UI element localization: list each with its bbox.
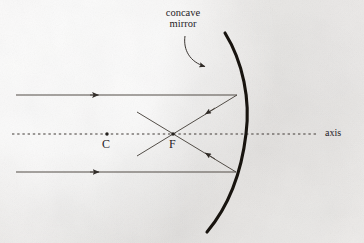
mirror-caption: concave mirror (152, 8, 214, 29)
ray-diagram-figure: concave mirror C F axis (0, 0, 364, 243)
mirror-caption-line2: mirror (152, 19, 214, 30)
focal-point-dot (171, 132, 174, 135)
center-of-curvature-label: C (102, 138, 110, 150)
reflected-ray-lower-arrowhead (206, 153, 216, 159)
axis-label: axis (325, 128, 341, 138)
caption-pointer-arrow (185, 36, 205, 67)
center-of-curvature-dot (105, 132, 108, 135)
concave-mirror-arc (207, 33, 247, 232)
diagram-vectors (0, 0, 364, 243)
reflected-ray-upper-arrowhead (206, 108, 216, 114)
focal-point-label: F (169, 138, 176, 150)
reflected-ray-lower (137, 112, 236, 172)
reflected-ray-upper (137, 95, 237, 156)
